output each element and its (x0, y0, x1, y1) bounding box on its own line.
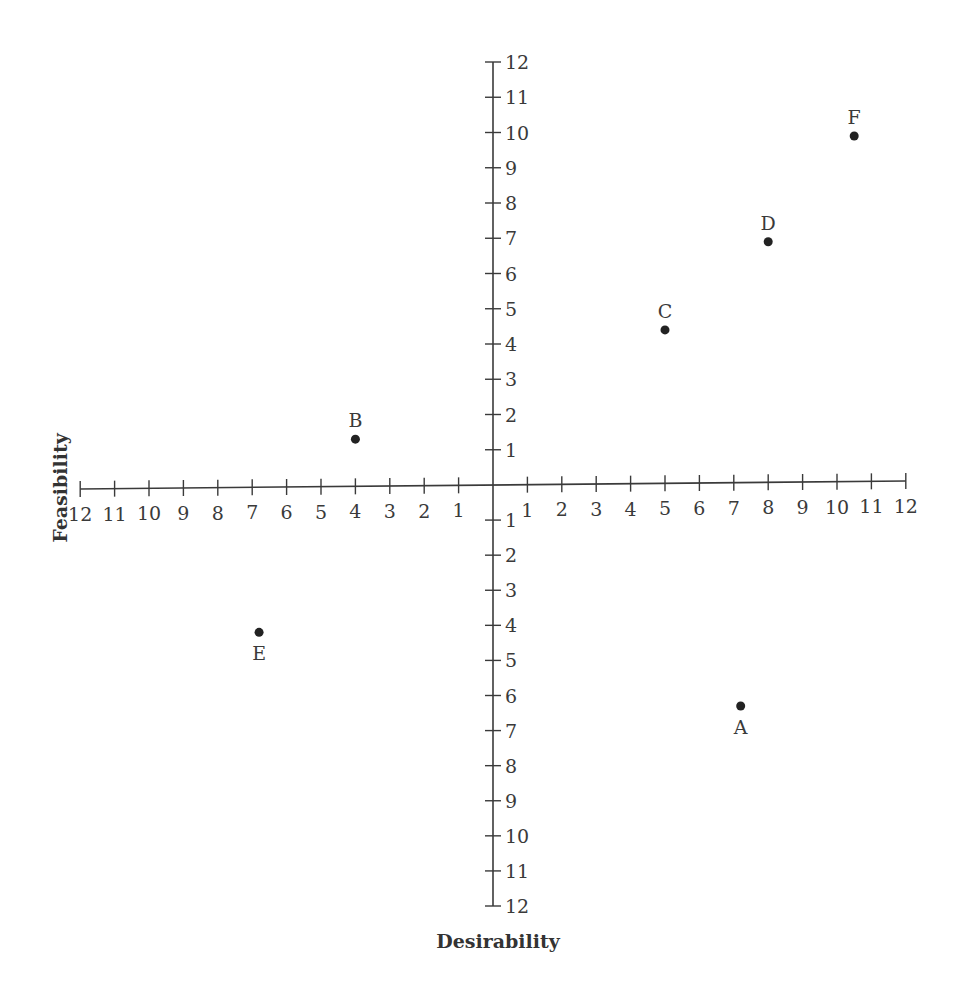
y-tick-label: 11 (505, 86, 529, 108)
data-point-f (850, 132, 859, 141)
x-tick-label: 1 (521, 499, 533, 521)
y-tick-label: 1 (505, 509, 517, 531)
y-tick-label: 9 (505, 790, 517, 812)
data-point-c (661, 325, 670, 334)
x-tick-label: 11 (859, 495, 883, 517)
y-tick-label: 3 (505, 368, 517, 390)
y-tick-label: 5 (505, 649, 517, 671)
x-tick-label: 5 (659, 497, 671, 519)
y-tick-label: 12 (505, 51, 529, 73)
y-tick-label: 3 (505, 579, 517, 601)
x-tick-label: 2 (556, 498, 568, 520)
x-tick-label: 12 (68, 503, 92, 525)
data-point-label-d: D (761, 212, 776, 234)
x-tick-label: 4 (349, 500, 361, 522)
axes (80, 62, 906, 906)
y-tick-label: 2 (505, 404, 517, 426)
y-tick-label: 12 (505, 895, 529, 917)
y-tick-label: 6 (505, 263, 517, 285)
data-point-label-b: B (348, 409, 362, 431)
x-tick-label: 10 (825, 496, 849, 518)
x-tick-label: 5 (315, 501, 327, 523)
y-tick-label: 5 (505, 298, 517, 320)
y-tick-label: 2 (505, 544, 517, 566)
y-tick-label: 8 (505, 755, 517, 777)
data-point-d (764, 237, 773, 246)
x-tick-label: 7 (246, 501, 258, 523)
y-tick-label: 10 (505, 825, 529, 847)
y-axis-title: Feasibility (49, 432, 71, 542)
y-tick-label: 8 (505, 192, 517, 214)
data-point-a (736, 702, 745, 711)
data-points: ABCDEF (252, 106, 861, 738)
x-tick-label: 1 (453, 499, 465, 521)
y-tick-label: 6 (505, 685, 517, 707)
x-tick-label: 7 (728, 497, 740, 519)
data-point-label-f: F (848, 106, 861, 128)
data-point-label-c: C (658, 300, 673, 322)
y-tick-label: 10 (505, 122, 529, 144)
x-tick-label: 9 (797, 496, 809, 518)
x-tick-label: 2 (418, 500, 430, 522)
x-tick-label: 6 (693, 497, 705, 519)
x-tick-label: 8 (212, 502, 224, 524)
x-tick-label: 3 (590, 498, 602, 520)
y-tick-label: 4 (505, 333, 517, 355)
x-tick-label: 10 (137, 502, 161, 524)
x-tick-label: 8 (762, 496, 774, 518)
x-tick-label: 11 (103, 503, 127, 525)
y-tick-label: 9 (505, 157, 517, 179)
data-point-label-a: A (733, 716, 748, 738)
y-tick-label: 7 (505, 227, 517, 249)
x-tick-label: 6 (281, 501, 293, 523)
data-point-label-e: E (252, 642, 266, 664)
y-tick-label: 1 (505, 439, 517, 461)
y-tick-label: 4 (505, 614, 517, 636)
y-tick-label: 11 (505, 860, 529, 882)
x-tick-label: 3 (384, 500, 396, 522)
quadrant-chart: 1211109876543211234567891011121211109876… (0, 0, 957, 1002)
y-tick-label: 7 (505, 720, 517, 742)
x-axis-title: Desirability (436, 930, 561, 952)
x-tick-label: 12 (894, 495, 918, 517)
data-point-e (255, 628, 264, 637)
data-point-b (351, 435, 360, 444)
x-tick-label: 4 (625, 498, 637, 520)
x-tick-label: 9 (177, 502, 189, 524)
